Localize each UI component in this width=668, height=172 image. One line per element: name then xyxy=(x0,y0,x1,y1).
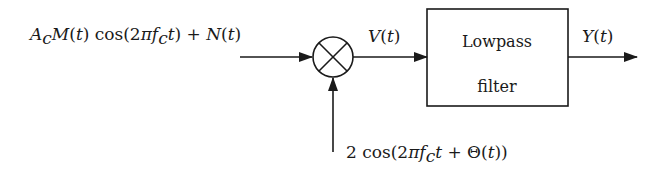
mixer-icon xyxy=(313,37,353,77)
block-diagram: AcM(t) cos(2πfct) + N(t) 2 cos(2πfct + Θ… xyxy=(0,0,668,172)
filter-label-line2: filter xyxy=(477,77,517,96)
input-signal-label: AcM(t) cos(2πfct) + N(t) xyxy=(28,24,241,48)
oscillator-label: 2 cos(2πfct + Θ(t)) xyxy=(346,142,508,166)
mixer-output-label: V(t) xyxy=(368,26,400,46)
filter-label-line1: Lowpass xyxy=(462,32,532,51)
output-signal-label: Y(t) xyxy=(582,26,613,46)
